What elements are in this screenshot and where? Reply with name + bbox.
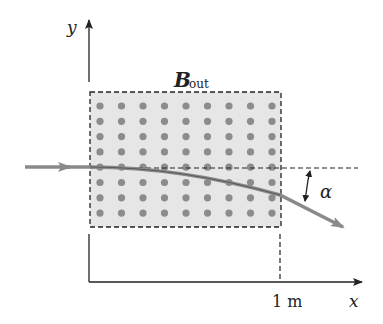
field-dot — [118, 194, 125, 201]
field-dot — [118, 118, 125, 125]
field-dot — [247, 210, 254, 217]
field-dot — [161, 133, 168, 140]
field-dot — [204, 133, 211, 140]
field-dot — [139, 179, 146, 186]
field-dot — [247, 194, 254, 201]
field-dot — [96, 210, 103, 217]
field-dot — [161, 210, 168, 217]
field-dot — [225, 102, 232, 109]
field-dot — [268, 133, 275, 140]
field-dot — [182, 194, 189, 201]
field-dot — [204, 194, 211, 201]
field-dot — [247, 133, 254, 140]
y-axis-label: y — [66, 17, 77, 37]
field-dot — [139, 148, 146, 155]
field-dot — [268, 179, 275, 186]
field-dot — [161, 148, 168, 155]
field-dot — [161, 194, 168, 201]
field-dot — [247, 118, 254, 125]
angle-arrow-lower — [305, 180, 308, 201]
distance-label: 1 m — [272, 292, 302, 311]
field-dot — [247, 102, 254, 109]
field-dot — [268, 164, 275, 171]
field-dot — [96, 148, 103, 155]
field-dot — [204, 210, 211, 217]
field-dot — [118, 102, 125, 109]
field-dot — [96, 179, 103, 186]
field-dot — [182, 179, 189, 186]
field-dot — [268, 210, 275, 217]
field-dot — [118, 148, 125, 155]
field-dot — [139, 118, 146, 125]
field-dot — [225, 148, 232, 155]
field-dot — [96, 118, 103, 125]
field-dot — [182, 164, 189, 171]
field-dot — [247, 148, 254, 155]
field-dot — [225, 164, 232, 171]
field-dot — [268, 118, 275, 125]
field-dot — [225, 133, 232, 140]
field-dot — [139, 133, 146, 140]
field-dot — [225, 210, 232, 217]
field-region — [90, 92, 281, 227]
field-dot — [182, 148, 189, 155]
field-dot — [118, 179, 125, 186]
field-dot — [182, 102, 189, 109]
field-dot — [139, 210, 146, 217]
field-dot — [96, 133, 103, 140]
field-dot — [161, 179, 168, 186]
angle-arrow — [308, 171, 310, 180]
field-dot — [118, 133, 125, 140]
field-dot — [204, 102, 211, 109]
field-dot — [161, 102, 168, 109]
field-dot — [268, 102, 275, 109]
field-dot — [182, 118, 189, 125]
field-dot — [204, 164, 211, 171]
field-dot — [204, 118, 211, 125]
field-dot — [225, 118, 232, 125]
field-dot — [204, 148, 211, 155]
field-dot — [96, 194, 103, 201]
field-dot — [96, 102, 103, 109]
field-dot — [182, 133, 189, 140]
field-dot — [161, 118, 168, 125]
field-dot — [182, 210, 189, 217]
diagram: y B out α 1 m x — [0, 0, 383, 324]
angle-label: α — [320, 181, 332, 202]
field-dot — [247, 164, 254, 171]
field-dot — [139, 194, 146, 201]
x-axis-label: x — [349, 291, 359, 311]
field-dot — [118, 210, 125, 217]
field-label-subscript: out — [189, 77, 209, 91]
field-dot — [268, 148, 275, 155]
field-dot — [225, 194, 232, 201]
field-dot — [139, 102, 146, 109]
